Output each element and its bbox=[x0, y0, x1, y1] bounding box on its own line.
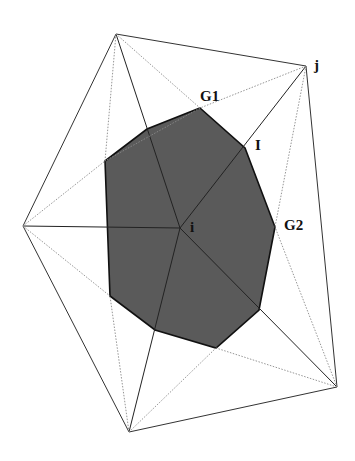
label-G2: G2 bbox=[284, 217, 303, 233]
label-j: j bbox=[313, 57, 319, 73]
label-I: I bbox=[255, 137, 261, 153]
label-i: i bbox=[190, 219, 194, 235]
triangulation-diagram: j G1 I G2 i bbox=[0, 0, 355, 461]
label-G1: G1 bbox=[200, 88, 219, 104]
